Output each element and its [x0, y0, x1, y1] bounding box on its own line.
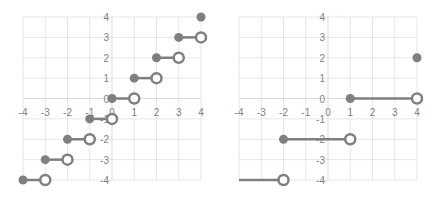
y-tick-label: 3 [103, 32, 109, 43]
open-circle-marker [85, 134, 95, 144]
y-tick-label: -4 [316, 175, 325, 186]
closed-dot-marker [346, 94, 355, 103]
closed-dot-marker [279, 135, 288, 144]
y-tick-label: 1 [103, 73, 109, 84]
charts-canvas: -4-3-2-10123443210-1-2-3-4-4-3-2-1012344… [0, 0, 440, 199]
x-tick-label: -2 [63, 107, 72, 118]
isolated-point-marker [197, 13, 206, 22]
open-circle-marker [107, 114, 117, 124]
closed-dot-marker [41, 155, 50, 164]
closed-dot-marker [108, 94, 117, 103]
closed-dot-marker [85, 114, 94, 123]
step-segment [108, 94, 140, 104]
x-tick-label: -1 [301, 107, 310, 118]
open-circle-marker [129, 94, 139, 104]
x-tick-label: -4 [235, 107, 244, 118]
step-segment [152, 53, 184, 63]
y-tick-label: 4 [319, 12, 325, 23]
open-circle-marker [40, 175, 50, 185]
step-segment [346, 94, 422, 104]
open-circle-marker [279, 175, 289, 185]
y-tick-label: 2 [103, 53, 109, 64]
step-segment [41, 155, 73, 165]
isolated-point-marker [413, 53, 422, 62]
x-tick-label: 1 [347, 107, 353, 118]
step-segment [130, 73, 162, 83]
step-segment [63, 134, 95, 144]
x-tick-label: -3 [257, 107, 266, 118]
step-segment [174, 32, 206, 42]
open-circle-marker [412, 94, 422, 104]
closed-dot-marker [19, 176, 28, 185]
y-tick-label: -2 [100, 134, 109, 145]
chart-1: -4-3-2-10123443210-1-2-3-4 [19, 12, 207, 186]
x-tick-label: 2 [370, 107, 376, 118]
step-segment [239, 175, 289, 185]
chart-2: -4-3-2-10123443210-1-2-3-4 [235, 12, 422, 186]
x-tick-label: 2 [154, 107, 160, 118]
y-tick-label: 1 [319, 73, 325, 84]
y-tick-label: 0 [319, 94, 325, 105]
open-circle-marker [345, 134, 355, 144]
x-tick-label: -2 [279, 107, 288, 118]
y-tick-label: -4 [100, 175, 109, 186]
y-tick-label: 4 [103, 12, 109, 23]
open-circle-marker [174, 53, 184, 63]
y-tick-label: 2 [319, 53, 325, 64]
y-tick-label: -3 [100, 155, 109, 166]
closed-dot-marker [130, 74, 139, 83]
open-circle-marker [196, 32, 206, 42]
x-tick-label: 0 [325, 107, 331, 118]
x-tick-label: -3 [41, 107, 50, 118]
x-tick-label: 3 [392, 107, 398, 118]
closed-dot-marker [174, 33, 183, 42]
x-tick-label: 4 [414, 107, 420, 118]
step-segment [19, 175, 51, 185]
y-tick-label: -1 [316, 114, 325, 125]
closed-dot-marker [152, 53, 161, 62]
x-tick-label: 4 [198, 107, 204, 118]
y-tick-label: -3 [316, 155, 325, 166]
x-tick-label: 1 [131, 107, 137, 118]
y-tick-label: 3 [319, 32, 325, 43]
x-tick-label: -4 [19, 107, 28, 118]
open-circle-marker [152, 73, 162, 83]
open-circle-marker [63, 155, 73, 165]
x-tick-label: 3 [176, 107, 182, 118]
closed-dot-marker [63, 135, 72, 144]
